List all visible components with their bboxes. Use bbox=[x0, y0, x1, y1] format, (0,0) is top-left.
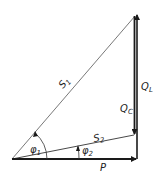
s1-label: S1 bbox=[56, 75, 73, 92]
s2-label: S2 bbox=[92, 131, 106, 146]
p-label: P bbox=[100, 162, 107, 173]
s1-vector bbox=[12, 16, 135, 159]
phi2-label: φ2 bbox=[82, 145, 94, 158]
qc-label: QC bbox=[120, 103, 133, 116]
ql-label: QL bbox=[141, 81, 153, 94]
power-triangle-diagram: S1 S2 QL QC P φ1 φ2 bbox=[0, 0, 159, 179]
